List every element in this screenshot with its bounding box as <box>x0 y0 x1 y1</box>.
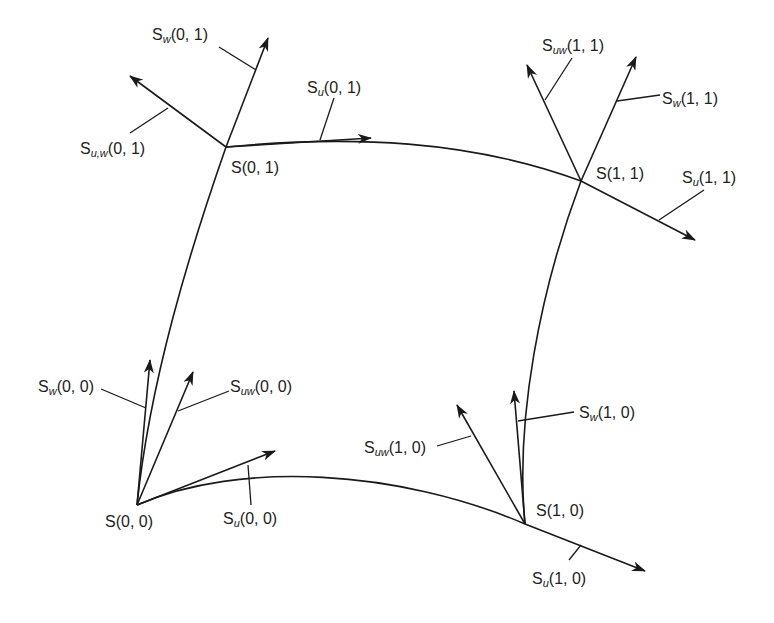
suw11-vector <box>527 65 581 181</box>
label-s10: S(1, 0) <box>536 502 584 519</box>
label-su00: Su(0, 0) <box>223 510 277 529</box>
sw11-vector <box>581 57 636 181</box>
label-suw00: Suw(0, 0) <box>230 378 292 397</box>
suw00-vector <box>137 372 193 505</box>
boundary-curve-right <box>523 181 581 524</box>
surface-patch-diagram: Sw(0, 1) Su(0, 1) Su,w(0, 1) S(0, 1) Suw… <box>0 0 774 623</box>
label-s11: S(1, 1) <box>596 165 644 182</box>
label-su01: Su(0, 1) <box>307 79 361 98</box>
label-su11: Su(1, 1) <box>682 169 736 188</box>
su10-vector <box>525 524 645 571</box>
label-sw11: Sw(1, 1) <box>662 90 718 109</box>
su11-vector <box>581 181 695 240</box>
label-sw01: Sw(0, 1) <box>152 26 208 45</box>
label-suw01: Su,w(0, 1) <box>80 140 145 159</box>
label-suw10: Suw(1, 0) <box>364 439 426 458</box>
suw10-vector <box>457 405 525 524</box>
sw01-vector <box>226 38 268 147</box>
label-s01: S(0, 1) <box>231 159 279 176</box>
label-su10: Su(1, 0) <box>532 570 586 589</box>
label-s00: S(0, 0) <box>105 513 153 530</box>
boundary-curve-bottom <box>137 477 525 524</box>
label-sw10: Sw(1, 0) <box>579 404 635 423</box>
label-sw00: Sw(0, 0) <box>38 378 94 397</box>
boundary-curve-top <box>226 141 581 181</box>
boundary-curve-left <box>137 147 226 505</box>
su01-vector <box>226 138 371 147</box>
label-suw11: Suw(1, 1) <box>542 37 604 56</box>
suw01-vector <box>130 76 226 147</box>
